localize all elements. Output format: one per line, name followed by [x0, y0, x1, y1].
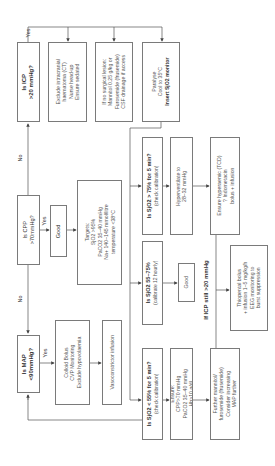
- node-text: Insert SjO2 monitor: [164, 58, 170, 106]
- icp-question-box: Is ICP >20 mmHg?: [17, 42, 40, 122]
- cpp-question-box: Is CPP >70mmHg?: [17, 195, 40, 265]
- node-text: temperature <38°C: [109, 205, 115, 260]
- no-surgical-lesion-box: If no surgical lesion: Mannitol 0.25 g/k…: [95, 42, 133, 122]
- ensure-cpp-box: Ensure: CPP>70 mmHg PaCO2 35–40 mmHg Hb>…: [170, 348, 193, 440]
- edge-label-cpp-yes: Yes: [41, 217, 47, 226]
- node-text: Is SjO2 < 55% for 5 min?: [146, 361, 153, 426]
- good-box-2: Good: [178, 263, 195, 302]
- node-text: Ensure:: [170, 369, 175, 419]
- node-text: Good: [55, 224, 62, 238]
- good-box-1: Good: [50, 205, 67, 257]
- colloid-bolus-box: Colloid Bolus CVP Monitoring Exclude hyp…: [55, 320, 90, 405]
- edge-label-icp-yes: Yes: [25, 29, 31, 38]
- node-text: SjO2 >95%: [90, 205, 96, 260]
- node-text: Ensure sedated: [74, 59, 80, 104]
- flowchart-canvas: Is ICP >20 mmHg? Exclude intracranial ha…: [0, 0, 275, 466]
- node-text: CPP>70 mmHg: [175, 369, 181, 419]
- map-question-box: Is MAP <90mmHg?: [17, 335, 40, 393]
- node-text: >70mmHg?: [29, 215, 36, 244]
- vasoconstrictor-box: Vasoconstrictor infusion: [102, 320, 122, 405]
- node-text: burst suppression: [255, 262, 261, 314]
- ensure-hyperaemic-box: Ensure hyperaemic (TCD) ? Indometacin bo…: [210, 137, 240, 235]
- exclude-haematoma-box: Exclude intracranial haematoma (CT) Nurs…: [48, 42, 87, 122]
- node-text: MAP further: [231, 367, 237, 420]
- node-text: Cool to 35°C: [158, 58, 164, 106]
- node-text: haematoma (CT): [61, 59, 67, 104]
- node-text: <90mmHg?: [29, 348, 36, 381]
- node-text: Targets:: [83, 205, 89, 260]
- node-text: Good: [183, 276, 189, 289]
- node-text: PaCO2 35–40 mmHg: [96, 205, 102, 260]
- node-text: Exclude intracranial: [55, 59, 61, 104]
- paralyse-box: Paralyse Cool to 35°C Insert SjO2 monito…: [142, 42, 180, 122]
- edge-label-map-yes: Yes: [42, 349, 48, 358]
- node-text: ? Indometacin: [222, 156, 228, 216]
- node-text: Colloid Bolus: [63, 337, 69, 389]
- edge-label-cpp-no-bottom: No: [17, 296, 23, 303]
- node-text: CVP Monitoring: [69, 337, 75, 389]
- node-text: Hb>10 g/dl: [188, 369, 193, 419]
- node-text: Is CPP: [22, 215, 29, 244]
- node-text: Exclude hypovolaemia: [76, 337, 82, 389]
- node-text: Nurse head-up: [68, 59, 74, 104]
- node-text: Ensure hyperaemic (TCD): [215, 156, 221, 216]
- node-text: PaCO2 35–40 mmHg: [182, 369, 188, 419]
- node-text: (check calibration): [153, 153, 160, 218]
- sjo2-high-box: Is SjO2 > 75% for 5 min? (check calibrat…: [142, 137, 163, 235]
- thiopental-box: Thiopental bolus + infusion 1–5 mg/kg/h …: [230, 245, 268, 331]
- node-text: EEG monitoring to: [249, 262, 255, 314]
- node-text: 28–32 mmHg: [182, 167, 188, 206]
- node-text: Na+ 140–145 mmol/litre: [103, 205, 109, 260]
- node-text: bolus + infusion: [228, 156, 234, 216]
- node-text: Paralyse: [151, 58, 157, 106]
- node-text: >20 mmHg?: [29, 65, 36, 99]
- hypoventilate-box: Hyperventilate to 28–32 mmHg: [170, 137, 193, 235]
- node-text: Vasoconstrictor infusion: [109, 335, 115, 390]
- node-text: CSF drainage if access: [120, 54, 126, 109]
- node-text: (calibrate 12 hourly): [153, 261, 160, 305]
- node-text: Is SjO2 > 75% for 5 min?: [146, 153, 153, 218]
- sjo2-mid-box: Is SjO2 55–75% (calibrate 12 hourly): [142, 241, 163, 325]
- node-text: + infusion 1–5 mg/kg/h: [243, 262, 249, 314]
- further-mannitol-box: Further mannitol/ furosemide (frusemide)…: [210, 348, 240, 440]
- targets-box: Targets: SjO2 >95% PaCO2 35–40 mmHg Na+ …: [77, 180, 122, 285]
- edge-label-icp-still: If ICP still >20 mmHg: [203, 260, 209, 319]
- sjo2-low-box: Is SjO2 < 55% for 5 min? (check calibrat…: [142, 348, 163, 440]
- node-text: Thiopental bolus: [236, 262, 242, 314]
- edge-label-cpp-no-top: No: [17, 155, 23, 162]
- node-text: (check calibration): [153, 361, 160, 426]
